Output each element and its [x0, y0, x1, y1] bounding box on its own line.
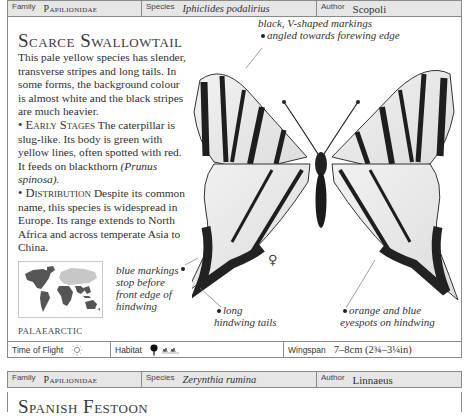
time-of-flight-cell: Time of Flight	[8, 342, 111, 357]
annotation-eyespots: orange and blue eyespots on hindwing	[340, 304, 435, 328]
annotation-tails: long hindwing tails	[214, 304, 277, 328]
annotation-forewing-line2: angled towards forewing edge	[267, 29, 400, 41]
bullet-dot	[343, 309, 347, 313]
annotation-tails-line2: hindwing tails	[214, 316, 277, 328]
species-label: Species	[146, 373, 174, 382]
species-cell: Species Zerynthia rumina	[142, 372, 317, 387]
wingspan-label: Wingspan	[288, 345, 326, 355]
bullet-dot	[261, 34, 265, 38]
habitat-label: Habitat	[115, 345, 142, 355]
author-cell: Author Linnaeus	[317, 372, 461, 387]
annotation-tails-line1: long	[223, 304, 243, 316]
annotation-eyespots-line1: orange and blue	[349, 304, 421, 316]
habitat-cell: Habitat	[111, 342, 284, 357]
family-cell: Family Papilionidae	[8, 372, 142, 387]
annotation-forewing: black, V-shaped markings angled towards …	[258, 17, 400, 41]
wingspan-value: 7–8cm (2¾–3¼in)	[334, 344, 412, 355]
annotation-eyespots-line2: eyespots on hindwing	[340, 316, 435, 328]
female-symbol-icon: ♀	[268, 252, 278, 267]
bullet-dot	[217, 309, 221, 313]
family-label: Family	[12, 373, 36, 382]
entry2-header: Family Papilionidae Species Zerynthia ru…	[7, 371, 462, 388]
annotation-forewing-line1: black, V-shaped markings	[258, 17, 400, 29]
grassland-icon	[162, 346, 180, 354]
annotation-blue-markings: blue markings stop before front edge of …	[116, 264, 188, 312]
tree-icon	[150, 344, 158, 356]
bullet-dot	[181, 267, 185, 271]
time-of-flight-label: Time of Flight	[12, 345, 63, 355]
sun-icon	[71, 344, 83, 356]
wingspan-cell: Wingspan 7–8cm (2¾–3¼in)	[284, 342, 461, 357]
entry-footer: Time of Flight Habitat	[7, 341, 462, 358]
author-value: Linnaeus	[353, 374, 393, 386]
author-label: Author	[321, 373, 345, 382]
annotation-blue-markings-text: blue markings stop before front edge of …	[116, 264, 179, 312]
species-value: Zerynthia rumina	[182, 374, 256, 385]
family-value: Papilionidae	[44, 374, 98, 385]
species-title: Spanish Festoon	[18, 397, 148, 417]
